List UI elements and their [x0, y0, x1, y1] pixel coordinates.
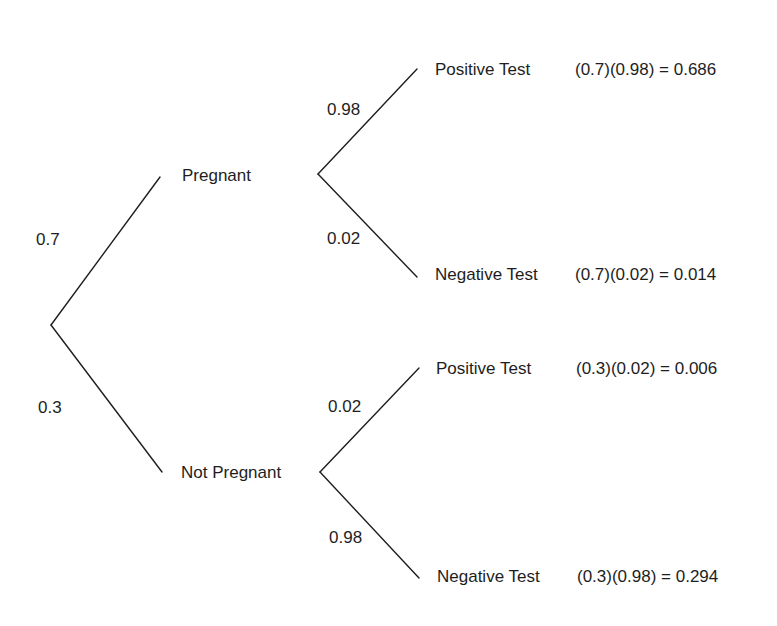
outcome-not-pregnant: Not Pregnant	[181, 463, 281, 483]
outcome-pregnant-negative-test: Negative Test	[435, 265, 538, 285]
probability-not-pregnant: 0.3	[38, 398, 62, 418]
branch-root-pregnant	[51, 177, 160, 325]
outcome-notpregnant-positive-test: Positive Test	[436, 359, 531, 379]
outcome-pregnant-positive-test: Positive Test	[435, 60, 530, 80]
probability-pregnant: 0.7	[36, 230, 60, 250]
joint-notpregnant-negative: (0.3)(0.98) = 0.294	[577, 567, 718, 587]
branch-notpregnant-positive	[320, 368, 419, 472]
probability-notpregnant-negative: 0.98	[329, 528, 362, 548]
branch-pregnant-positive	[318, 69, 417, 174]
probability-pregnant-negative: 0.02	[327, 229, 360, 249]
joint-notpregnant-positive: (0.3)(0.02) = 0.006	[576, 359, 717, 379]
outcome-notpregnant-negative-test: Negative Test	[437, 567, 540, 587]
joint-pregnant-positive: (0.7)(0.98) = 0.686	[575, 60, 716, 80]
joint-pregnant-negative: (0.7)(0.02) = 0.014	[575, 265, 716, 285]
probability-pregnant-positive: 0.98	[327, 100, 360, 120]
probability-notpregnant-positive: 0.02	[328, 397, 361, 417]
outcome-pregnant: Pregnant	[182, 166, 251, 186]
branch-root-not-pregnant	[51, 325, 162, 472]
branch-pregnant-negative	[318, 174, 417, 277]
probability-tree-lines	[0, 0, 777, 626]
branch-notpregnant-negative	[320, 472, 419, 578]
